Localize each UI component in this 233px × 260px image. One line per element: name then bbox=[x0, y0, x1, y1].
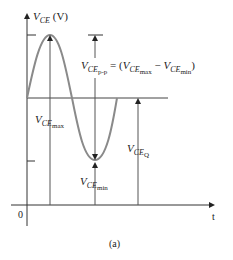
vce-pp-label: VCEp-p = (VCEmax − VCEmin) bbox=[81, 60, 195, 76]
y-axis-label: VCE (V) bbox=[33, 11, 68, 25]
vce-q-label: VCEQ bbox=[127, 143, 149, 159]
vce-min-label: VCEmin bbox=[80, 176, 108, 192]
figure-caption: (a) bbox=[109, 239, 120, 249]
x-axis-label: t bbox=[212, 212, 215, 222]
vce-max-label: VCEmax bbox=[35, 114, 64, 130]
origin-label: 0 bbox=[18, 210, 23, 220]
vce-waveform-diagram bbox=[0, 0, 233, 260]
